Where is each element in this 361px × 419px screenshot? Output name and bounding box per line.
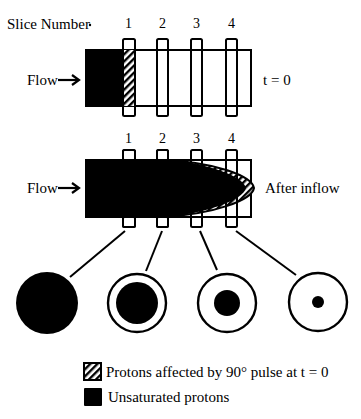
flow-arrow-icon (58, 75, 79, 85)
legend: Protons affected by 90° pulse at t = 0 U… (84, 363, 328, 406)
bullet-dot (89, 24, 91, 26)
flow-arrow-icon (58, 183, 79, 193)
slice-number-3: 3 (193, 16, 200, 31)
slice-number-4-b: 4 (228, 131, 235, 146)
saturated-slice-region (124, 50, 134, 106)
slice-number-1: 1 (125, 16, 132, 31)
slice-number-4: 4 (228, 16, 235, 31)
slice-number-label: Slice Number (7, 16, 90, 32)
slice-number-3-b: 3 (193, 131, 200, 146)
bottom-vessel: Flow After inflow (27, 150, 340, 227)
unsaturated-region (85, 49, 125, 107)
cross-section-1 (16, 272, 78, 334)
flow-label-bottom: Flow (27, 180, 58, 196)
slice-number-2-b: 2 (159, 131, 166, 146)
flow-diagram: Slice Number 1 2 3 4 Flow t = 0 1 2 3 4 … (0, 0, 361, 419)
hatched-square-icon (84, 363, 101, 380)
cross-section-4 (289, 273, 347, 331)
after-inflow-label: After inflow (265, 180, 340, 196)
connector-lines (70, 231, 296, 277)
legend-label-unsaturated: Unsaturated protons (108, 389, 229, 405)
solid-square-icon (84, 388, 102, 406)
top-vessel: Flow t = 0 (27, 39, 291, 116)
slice-number-2: 2 (159, 16, 166, 31)
flow-label-top: Flow (27, 72, 58, 88)
legend-label-affected: Protons affected by 90° pulse at t = 0 (106, 364, 328, 380)
cross-section-2 (108, 274, 166, 332)
slice-number-1-b: 1 (125, 131, 132, 146)
time-label: t = 0 (263, 72, 291, 88)
cross-section-3 (198, 274, 256, 332)
